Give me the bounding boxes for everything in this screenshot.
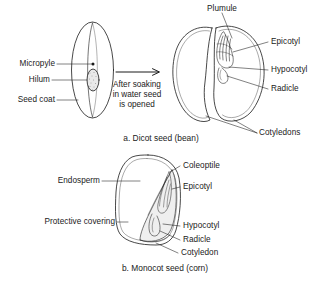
monocot-embryo-region [140, 170, 176, 242]
embryo-dicot-shape [217, 32, 234, 83]
label-coleoptile: Coleoptile [183, 161, 220, 171]
leader-epicotyl [233, 42, 268, 52]
leader-radicle [227, 76, 268, 89]
process-text-line-3: is opened [113, 100, 162, 110]
label-seed-coat: Seed coat [18, 95, 55, 105]
seed-structure-figure: Micropyle Hilum Seed coat After soaking … [0, 0, 335, 281]
leader-cotyledon-b [156, 243, 178, 253]
hilum-shape [87, 69, 99, 91]
label-cotyledons: Cotyledons [259, 128, 300, 138]
label-epicotyl: Epicotyl [271, 37, 300, 47]
label-hilum: Hilum [29, 75, 50, 85]
leader-cotyledon-left [206, 116, 257, 133]
caption-panel-b: b. Monocot seed (corn) [122, 263, 208, 273]
leader-hypocotyl [229, 67, 268, 70]
caption-panel-a: a. Dicot seed (bean) [123, 133, 198, 143]
label-micropyle: Micropyle [20, 59, 55, 69]
label-endosperm: Endosperm [58, 176, 100, 186]
process-arrow-shape [116, 69, 160, 76]
process-text-line-2: in water seed [113, 90, 162, 100]
label-plumule: Plumule [207, 4, 237, 14]
leader-plumule [222, 13, 232, 38]
label-hypocotyl: Hypocotyl [271, 65, 307, 75]
label-hypocotyl-b: Hypocotyl [183, 221, 219, 231]
label-epicotyl-b: Epicotyl [183, 182, 212, 192]
leader-coleoptile [170, 166, 180, 172]
label-cotyledon-b: Cotyledon [181, 248, 218, 258]
label-radicle: Radicle [271, 84, 299, 94]
process-text-line-1: After soaking [113, 80, 162, 90]
label-radicle-b: Radicle [183, 235, 211, 245]
process-text: After soaking in water seed is opened [113, 80, 162, 111]
label-protective-covering: Protective covering [44, 217, 115, 227]
cotyledon-left-shape [173, 27, 212, 121]
